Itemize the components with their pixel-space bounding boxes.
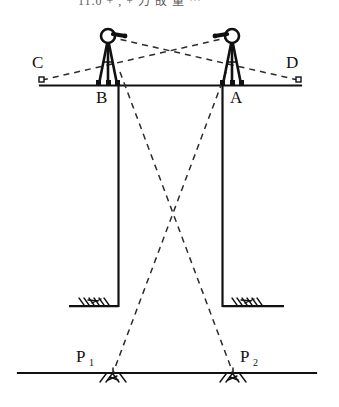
right-floor-hatching — [232, 298, 262, 305]
left-floor-hatching — [79, 298, 109, 305]
backsight-lines-group — [42, 38, 298, 80]
p2-ground-hatching — [220, 368, 246, 382]
sight-line-a-to-p1 — [113, 72, 226, 373]
theodolite-left — [96, 29, 127, 85]
backsight-line-c-to-a — [42, 38, 226, 80]
target-mark-c — [39, 77, 44, 82]
survey-figure: 11.0 + , + 力 故 量 ⋯ — [0, 0, 339, 407]
shaft-walls-group — [69, 85, 284, 307]
target-mark-d — [296, 77, 301, 82]
label-a: A — [230, 88, 243, 107]
p1-ground-hatching — [100, 368, 126, 382]
theodolite-right-feet — [220, 80, 244, 85]
theodolite-left-feet — [96, 80, 120, 85]
label-p2-group: P 2 — [240, 347, 258, 368]
backsight-line-d-to-b — [114, 38, 298, 80]
label-d: D — [286, 53, 298, 72]
theodolite-right — [213, 29, 244, 85]
label-p1-group: P 1 — [76, 347, 94, 368]
diagram-canvas: C D B A P 1 P 2 — [0, 0, 339, 407]
sight-lines-group — [113, 72, 233, 373]
label-c: C — [32, 53, 43, 72]
label-p1: P — [76, 347, 85, 366]
label-b: B — [96, 88, 107, 107]
label-p2: P — [240, 347, 249, 366]
sight-line-b-to-p2 — [120, 72, 233, 373]
label-p2-subscript: 2 — [253, 357, 258, 368]
label-p1-subscript: 1 — [89, 357, 94, 368]
